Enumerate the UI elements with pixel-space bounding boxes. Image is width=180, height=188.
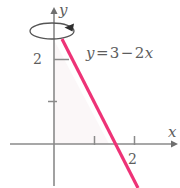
- y-axis-label: y: [59, 3, 67, 18]
- x-axis-label: x: [168, 125, 176, 140]
- graph-canvas: [0, 0, 180, 188]
- equation-constant: 3: [110, 44, 120, 62]
- x-tick-label-2: 2: [128, 152, 137, 166]
- y-axis-arrowhead: [50, 7, 57, 14]
- y-tick-label-2: 2: [33, 52, 42, 66]
- x-axis-arrowhead: [171, 140, 178, 147]
- equation-variable: x: [145, 44, 154, 62]
- figure-container: y x 2 2 y=3−2x: [0, 0, 180, 188]
- equation-lhs: y: [86, 44, 95, 62]
- equation-coefficient: 2: [135, 44, 145, 62]
- rotation-ellipse: [30, 23, 74, 39]
- equation-equals: =: [95, 44, 110, 62]
- equation-minus: −: [120, 44, 135, 62]
- equation-annotation: y=3−2x: [86, 46, 154, 61]
